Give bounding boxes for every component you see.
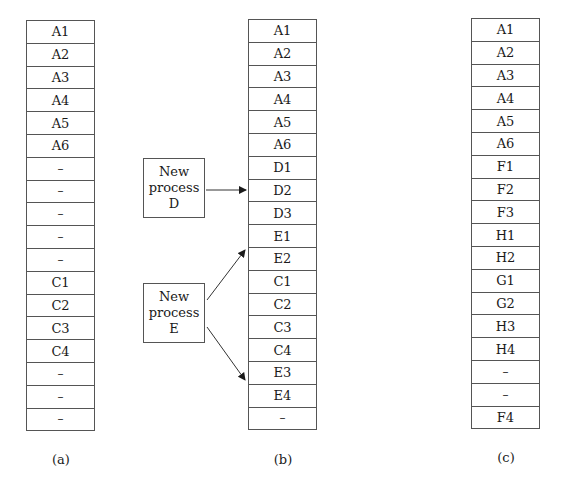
caption-b: (b)	[263, 452, 303, 467]
arrow-e-to-e1	[207, 250, 245, 300]
arrows	[0, 0, 564, 490]
caption-a: (a)	[41, 452, 81, 467]
caption-c: (c)	[486, 450, 526, 465]
arrow-e-to-e3	[207, 327, 245, 380]
